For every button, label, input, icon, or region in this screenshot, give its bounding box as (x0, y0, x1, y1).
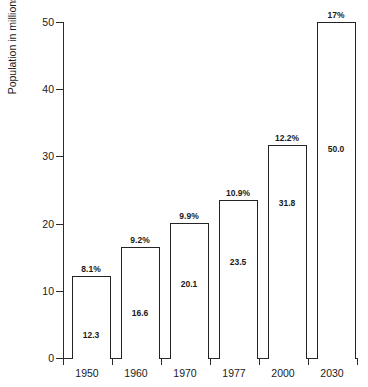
bar-1960 (121, 247, 160, 359)
x-tick-label-2030: 2030 (307, 368, 357, 379)
y-tick-label: 30 (14, 151, 54, 162)
y-tick-label: 50 (14, 17, 54, 28)
bar-value-label-2030: 50.0 (306, 145, 366, 154)
x-tick-mark (357, 358, 358, 365)
bar-value-label-1970: 20.1 (159, 280, 219, 289)
bar-percent-label-1950: 8.1% (61, 265, 121, 274)
x-tick-label-1960: 1960 (111, 368, 161, 379)
y-axis-line (63, 22, 64, 359)
x-tick-mark (161, 358, 162, 365)
y-tick-mark (56, 89, 64, 90)
y-tick-mark (56, 22, 64, 23)
y-tick-mark (56, 291, 64, 292)
x-tick-mark (112, 358, 113, 365)
bar-2030 (317, 22, 356, 359)
y-tick-mark (56, 156, 64, 157)
x-tick-mark (259, 358, 260, 365)
bar-1970 (170, 223, 209, 359)
x-tick-label-1950: 1950 (62, 368, 112, 379)
bar-percent-label-2000: 12.2% (257, 134, 317, 143)
chart-title: THE 65 AND OVER (0, 0, 368, 2)
bar-value-label-1950: 12.3 (61, 331, 121, 340)
x-tick-mark (308, 358, 309, 365)
y-tick-label: 40 (14, 84, 54, 95)
bar-chart: THE 65 AND OVER Population in millions 5… (0, 0, 368, 387)
bar-value-label-2000: 31.8 (257, 199, 317, 208)
bar-percent-label-2030: 17% (306, 11, 366, 20)
bar-percent-label-1977: 10.9% (208, 189, 268, 198)
x-tick-mark (63, 358, 64, 365)
y-tick-mark (56, 224, 64, 225)
y-tick-label: 10 (14, 286, 54, 297)
x-tick-label-1977: 1977 (209, 368, 259, 379)
bar-percent-label-1970: 9.9% (159, 212, 219, 221)
bar-value-label-1960: 16.6 (110, 309, 170, 318)
bar-percent-label-1960: 9.2% (110, 236, 170, 245)
x-tick-label-2000: 2000 (258, 368, 308, 379)
x-tick-label-1970: 1970 (160, 368, 210, 379)
y-tick-label: 20 (14, 219, 54, 230)
bar-1950 (72, 276, 111, 359)
bar-2000 (268, 145, 307, 359)
x-tick-mark (210, 358, 211, 365)
y-tick-label: 0 (14, 353, 54, 364)
bar-1977 (219, 200, 258, 359)
bar-value-label-1977: 23.5 (208, 258, 268, 267)
